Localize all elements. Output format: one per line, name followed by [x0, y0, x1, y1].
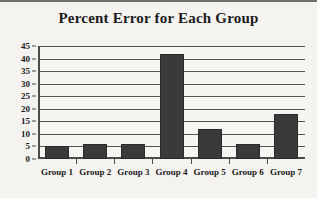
bar	[198, 129, 222, 159]
x-tick-label: Group 4	[155, 168, 187, 177]
y-tick-label: 10	[21, 129, 30, 138]
bar	[236, 144, 260, 159]
y-tick-mark	[32, 146, 36, 147]
bar	[45, 146, 69, 159]
x-tick-mark	[267, 159, 268, 164]
y-tick-label: 5	[26, 142, 31, 151]
x-tick-mark	[152, 159, 153, 164]
x-tick-mark	[229, 159, 230, 164]
bars-layer	[38, 46, 305, 159]
y-tick-label: 15	[21, 117, 30, 126]
x-tick-mark	[114, 159, 115, 164]
y-tick-mark	[32, 133, 36, 134]
y-tick-label: 20	[21, 104, 30, 113]
x-tick-label: Group 5	[194, 168, 226, 177]
x-tick-label: Group 6	[232, 168, 264, 177]
x-tick-label: Group 1	[41, 168, 73, 177]
chart-title: Percent Error for Each Group	[0, 10, 317, 27]
y-tick-mark	[32, 96, 36, 97]
y-tick-mark	[32, 83, 36, 84]
y-axis: 051015202530354045	[0, 46, 36, 159]
y-tick-label: 0	[26, 155, 31, 164]
x-axis: Group 1Group 2Group 3Group 4Group 5Group…	[38, 159, 305, 197]
x-tick-mark	[76, 159, 77, 164]
y-tick-label: 25	[21, 92, 30, 101]
y-tick-label: 30	[21, 79, 30, 88]
x-tick-mark	[191, 159, 192, 164]
y-tick-label: 40	[21, 54, 30, 63]
bar	[274, 114, 298, 159]
y-tick-mark	[32, 58, 36, 59]
y-tick-mark	[32, 71, 36, 72]
y-tick-mark	[32, 121, 36, 122]
y-tick-mark	[32, 108, 36, 109]
bar	[160, 54, 184, 159]
y-tick-mark	[32, 46, 36, 47]
x-tick-label: Group 2	[79, 168, 111, 177]
bar	[83, 144, 107, 159]
x-tick-label: Group 3	[117, 168, 149, 177]
bar-chart-figure: Percent Error for Each Group 05101520253…	[0, 0, 317, 198]
bar	[121, 144, 145, 159]
x-tick-label: Group 7	[270, 168, 302, 177]
y-tick-label: 45	[21, 42, 30, 51]
y-tick-label: 35	[21, 67, 30, 76]
y-tick-mark	[32, 159, 36, 160]
